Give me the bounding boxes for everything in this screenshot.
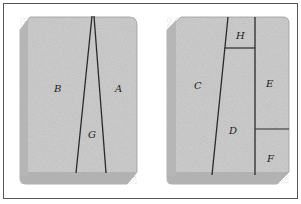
region-label-c: C [194,80,202,91]
region-label-g: G [88,129,96,140]
left-slab-texture [20,17,137,184]
region-label-a: A [114,83,122,94]
region-label-e: E [265,78,274,89]
slabs-diagram: B A G C H E D F [0,0,301,204]
region-label-d: D [228,125,237,136]
region-label-f: F [266,153,275,164]
region-label-h: H [235,30,245,41]
region-label-b: B [53,83,61,94]
left-slab [20,16,137,184]
